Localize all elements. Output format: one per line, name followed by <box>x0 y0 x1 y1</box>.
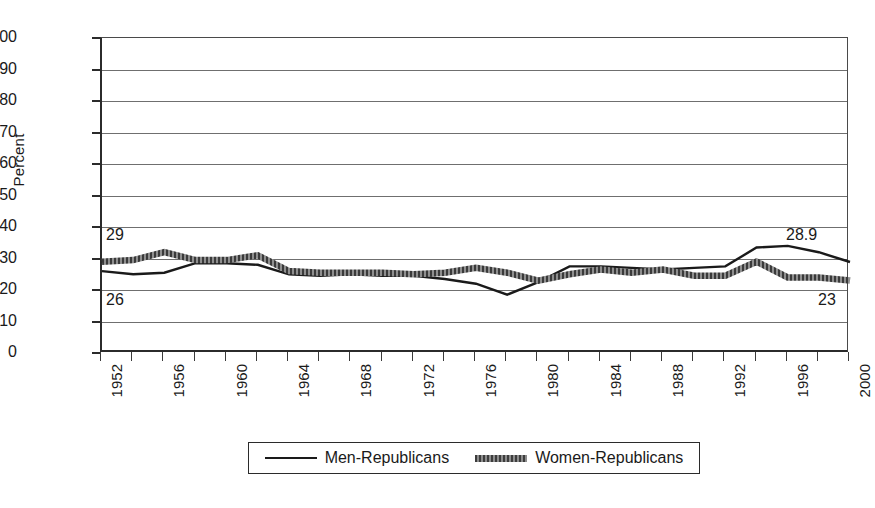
y-axis-tick-mark <box>92 195 100 197</box>
x-axis-tick-mark <box>786 352 787 361</box>
x-axis-tick-mark <box>349 352 350 361</box>
y-axis-tick-mark <box>92 352 100 354</box>
x-axis-tick-label: 1980 <box>544 364 561 397</box>
legend-line-swatch-men <box>265 457 317 459</box>
y-axis-tick-mark <box>92 132 100 134</box>
x-axis-tick-label: 1992 <box>731 364 748 397</box>
y-axis-tick-label: 90 <box>0 61 17 77</box>
x-axis-tick-mark <box>131 352 132 361</box>
x-axis-tick-mark <box>568 352 569 361</box>
y-axis-tick-mark <box>92 258 100 260</box>
y-axis-tick-label: 10 <box>0 313 17 329</box>
x-axis-tick-label: 1952 <box>108 364 125 397</box>
x-axis-tick-label: 1972 <box>420 364 437 397</box>
x-axis-tick-mark <box>318 352 319 361</box>
y-axis-tick-label: 0 <box>0 344 17 360</box>
x-axis-tick-label: 1996 <box>794 364 811 397</box>
x-axis-tick-mark <box>755 352 756 361</box>
x-axis-tick-mark <box>692 352 693 361</box>
x-axis-tick-mark <box>536 352 537 361</box>
y-axis-tick-label: 60 <box>0 155 17 171</box>
y-axis-tick-label: 30 <box>0 250 17 266</box>
y-axis-tick-label: 70 <box>0 124 17 140</box>
legend-label-women: Women-Republicans <box>535 450 683 466</box>
chart-legend: Men-Republicans Women-Republicans <box>248 442 700 474</box>
x-axis-tick-mark <box>287 352 288 361</box>
x-axis-tick-mark <box>723 352 724 361</box>
y-axis-tick-mark <box>92 37 100 39</box>
x-axis-tick-mark <box>256 352 257 361</box>
x-axis-tick-label: 1956 <box>170 364 187 397</box>
y-axis-tick-mark <box>92 289 100 291</box>
y-axis-tick-mark <box>92 321 100 323</box>
men-end-value: 28.9 <box>786 227 817 243</box>
x-axis-tick-mark <box>443 352 444 361</box>
x-axis-tick-label: 2000 <box>856 364 873 397</box>
x-axis-tick-label: 1984 <box>607 364 624 397</box>
y-axis-tick-mark <box>92 69 100 71</box>
y-axis-tick-label: 40 <box>0 218 17 234</box>
x-axis-tick-mark <box>162 352 163 361</box>
men-start-value: 26 <box>106 292 124 308</box>
x-axis-tick-label: 1960 <box>233 364 250 397</box>
x-axis-tick-mark <box>194 352 195 361</box>
y-axis-tick-label: 100 <box>0 29 17 45</box>
series-line-women <box>102 252 850 280</box>
x-axis-tick-mark <box>630 352 631 361</box>
y-axis-tick-mark <box>92 163 100 165</box>
x-axis-tick-label: 1988 <box>669 364 686 397</box>
x-axis-tick-mark <box>848 352 849 361</box>
women-end-value: 23 <box>818 292 836 308</box>
x-axis-tick-label: 1968 <box>357 364 374 397</box>
plot-area <box>100 37 848 352</box>
x-axis-tick-mark <box>412 352 413 361</box>
x-axis-tick-mark <box>661 352 662 361</box>
y-axis-tick-label: 80 <box>0 92 17 108</box>
y-axis-tick-mark <box>92 100 100 102</box>
legend-item-women: Women-Republicans <box>475 450 683 466</box>
x-axis-tick-mark <box>474 352 475 361</box>
x-axis-tick-mark <box>817 352 818 361</box>
legend-label-men: Men-Republicans <box>325 450 450 466</box>
y-axis-tick-mark <box>92 226 100 228</box>
x-axis-tick-mark <box>381 352 382 361</box>
y-axis-tick-label: 20 <box>0 281 17 297</box>
women-start-value: 29 <box>106 227 124 243</box>
x-axis-tick-label: 1964 <box>295 364 312 397</box>
x-axis-tick-mark <box>505 352 506 361</box>
x-axis-tick-mark <box>225 352 226 361</box>
x-axis-tick-mark <box>100 352 101 361</box>
x-axis-tick-label: 1976 <box>482 364 499 397</box>
legend-item-men: Men-Republicans <box>265 450 450 466</box>
legend-line-swatch-women <box>475 455 527 462</box>
chart-container: Percent 1009080706050403020100 195219561… <box>0 0 875 508</box>
series-layer <box>102 38 850 353</box>
y-axis-tick-label: 50 <box>0 187 17 203</box>
x-axis-tick-mark <box>599 352 600 361</box>
